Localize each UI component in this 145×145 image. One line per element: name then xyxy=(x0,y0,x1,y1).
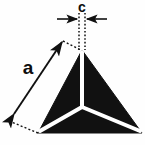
tetrahedron-body xyxy=(38,50,142,133)
tetrahedron-silhouette xyxy=(38,50,142,133)
tetrahedron-diagram: a c xyxy=(0,0,145,145)
dimension-a-label: a xyxy=(23,57,34,78)
dimension-a-leader-bottom xyxy=(9,121,38,133)
dimension-c-label: c xyxy=(78,0,86,15)
figure-canvas: a c xyxy=(0,0,145,145)
dimension-c-group: c xyxy=(57,0,107,50)
